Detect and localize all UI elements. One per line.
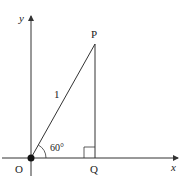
diagram-canvas: y x P O Q 1 60°: [0, 0, 189, 176]
x-axis-label: x: [170, 161, 176, 173]
origin-dot: [28, 155, 35, 162]
point-p-label: P: [91, 28, 97, 40]
angle-label: 60°: [50, 142, 64, 153]
angle-arc: [38, 145, 46, 158]
right-angle-marker: [84, 147, 95, 158]
segment-op: [31, 44, 95, 158]
point-o-label: O: [15, 163, 23, 175]
y-axis-label: y: [18, 12, 24, 24]
point-q-label: Q: [90, 163, 98, 175]
hypotenuse-length-label: 1: [54, 88, 60, 100]
